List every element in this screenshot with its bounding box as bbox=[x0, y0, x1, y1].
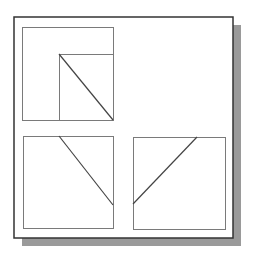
outer-frame bbox=[14, 17, 233, 238]
diagram-svg bbox=[0, 0, 254, 263]
diagram-canvas bbox=[0, 0, 254, 263]
